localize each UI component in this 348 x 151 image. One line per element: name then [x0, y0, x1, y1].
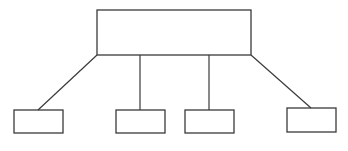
connector-line-4 — [251, 55, 311, 108]
root-node-box — [97, 10, 251, 55]
child-node-box-3 — [185, 110, 234, 133]
tree-diagram — [0, 0, 348, 151]
child-node-box-2 — [116, 110, 165, 133]
child-node-box-1 — [14, 110, 63, 133]
connector-line-1 — [38, 55, 97, 110]
child-node-box-4 — [287, 108, 336, 132]
child-nodes — [14, 55, 336, 133]
